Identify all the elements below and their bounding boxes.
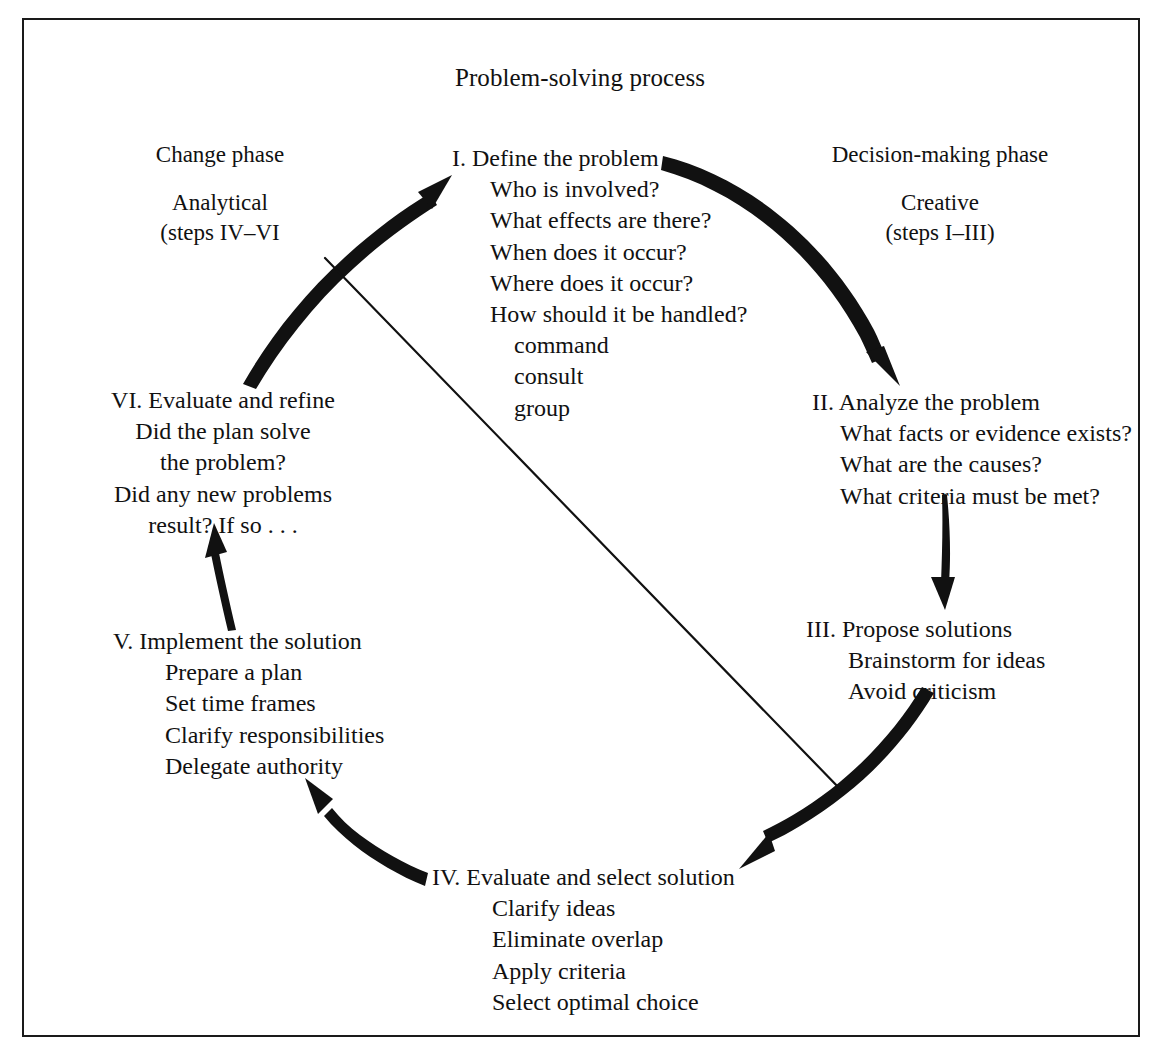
step-1-item: Where does it occur? — [452, 268, 747, 299]
step-6-item: Did any new problems — [78, 479, 368, 510]
step-5-item: Clarify responsibilities — [113, 720, 384, 751]
step-2-heading: II. Analyze the problem — [812, 387, 1132, 418]
phase-label-right: Decision-making phase Creative (steps I–… — [790, 140, 1090, 248]
step-3-item: Avoid criticism — [806, 676, 1045, 707]
step-2-analyze-the-problem: II. Analyze the problem What facts or ev… — [812, 387, 1132, 512]
step-1-item: How should it be handled? — [452, 299, 747, 330]
step-6-heading: VI. Evaluate and refine — [78, 385, 368, 416]
phase-left-name: Change phase — [70, 140, 370, 170]
phase-label-left: Change phase Analytical (steps IV–VI — [70, 140, 370, 248]
step-1-subitem: consult — [452, 361, 747, 392]
step-5-item: Delegate authority — [113, 751, 384, 782]
step-2-item: What are the causes? — [812, 449, 1132, 480]
step-2-item: What facts or evidence exists? — [812, 418, 1132, 449]
phase-right-kind: Creative — [790, 188, 1090, 218]
step-6-evaluate-and-refine: VI. Evaluate and refine Did the plan sol… — [78, 385, 368, 541]
step-5-item: Set time frames — [113, 688, 384, 719]
step-4-item: Eliminate overlap — [432, 924, 735, 955]
step-2-item: What criteria must be met? — [812, 481, 1132, 512]
step-4-evaluate-and-select-solution: IV. Evaluate and select solution Clarify… — [432, 862, 735, 1018]
step-5-implement-the-solution: V. Implement the solution Prepare a plan… — [113, 626, 384, 782]
step-5-item: Prepare a plan — [113, 657, 384, 688]
phase-right-range: (steps I–III) — [790, 218, 1090, 248]
page-title: Problem-solving process — [0, 62, 1160, 95]
step-1-item: What effects are there? — [452, 205, 747, 236]
step-3-propose-solutions: III. Propose solutions Brainstorm for id… — [806, 614, 1045, 708]
step-4-heading: IV. Evaluate and select solution — [432, 862, 735, 893]
step-6-item: Did the plan solve — [78, 416, 368, 447]
step-5-heading: V. Implement the solution — [113, 626, 384, 657]
step-4-item: Select optimal choice — [432, 987, 735, 1018]
step-3-heading: III. Propose solutions — [806, 614, 1045, 645]
phase-left-kind: Analytical — [70, 188, 370, 218]
step-4-item: Apply criteria — [432, 956, 735, 987]
step-6-item: the problem? — [78, 447, 368, 478]
step-6-item: result? If so . . . — [78, 510, 368, 541]
phase-right-name: Decision-making phase — [790, 140, 1090, 170]
step-4-item: Clarify ideas — [432, 893, 735, 924]
diagram-page: Problem-solving process Change phase Ana… — [0, 0, 1160, 1046]
step-3-item: Brainstorm for ideas — [806, 645, 1045, 676]
phase-left-range: (steps IV–VI — [70, 218, 370, 248]
step-1-subitem: group — [452, 393, 747, 424]
step-1-subitem: command — [452, 330, 747, 361]
step-1-define-the-problem: I. Define the problem Who is involved? W… — [452, 143, 747, 424]
step-1-item: When does it occur? — [452, 237, 747, 268]
step-1-heading: I. Define the problem — [452, 143, 747, 174]
step-1-item: Who is involved? — [452, 174, 747, 205]
